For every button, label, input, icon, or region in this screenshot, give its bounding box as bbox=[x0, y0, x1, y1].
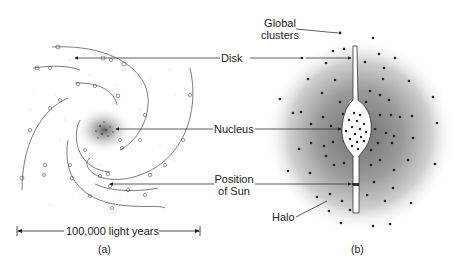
disk-label: Disk bbox=[221, 52, 242, 64]
position-of-sun-label-line1: Position bbox=[214, 173, 254, 185]
global-clusters-label-line2: clusters bbox=[258, 29, 302, 41]
halo-label: Halo bbox=[272, 211, 295, 223]
spiral-galaxy bbox=[20, 45, 193, 210]
panel-a-caption: (a) bbox=[98, 243, 111, 255]
position-of-sun-label-line2: of Sun bbox=[214, 185, 254, 197]
nucleus-label: Nucleus bbox=[214, 123, 254, 135]
panel-b-caption: (b) bbox=[351, 243, 364, 255]
edge-on-galaxy bbox=[265, 32, 455, 233]
global-clusters-label: Global clusters bbox=[258, 17, 302, 41]
global-clusters-label-line1: Global bbox=[258, 17, 302, 29]
scale-bar-label: 100,000 light years bbox=[66, 225, 159, 237]
sun-marker bbox=[353, 183, 359, 186]
position-of-sun-label: Position of Sun bbox=[214, 173, 254, 197]
